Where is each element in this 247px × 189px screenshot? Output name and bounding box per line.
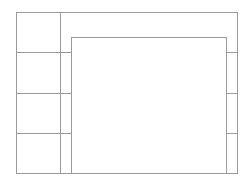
left-row-divider-3 [16, 133, 72, 134]
inner-panel [71, 37, 227, 174]
right-row-divider-2 [226, 93, 238, 94]
left-row-divider-2 [16, 93, 72, 94]
right-row-divider-1 [226, 52, 238, 53]
left-row-divider-1 [16, 52, 72, 53]
right-row-divider-3 [226, 133, 238, 134]
